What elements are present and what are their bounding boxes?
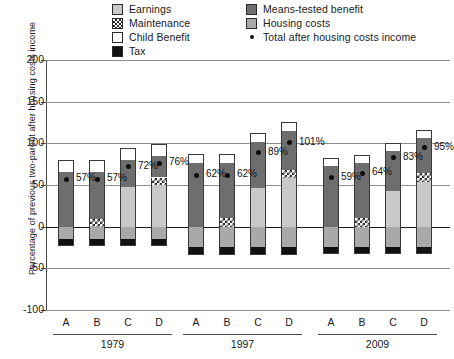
segment-child-benefit	[188, 154, 204, 163]
bar-1979-d	[151, 60, 167, 310]
segment-earnings	[151, 185, 167, 227]
legend-label-total-income: Total after housing costs income	[263, 31, 416, 43]
segment-maintenance	[416, 173, 432, 181]
legend-label-earnings: Earnings	[129, 3, 171, 15]
segment-child-benefit	[281, 122, 297, 131]
y-tick-label-200: 200	[10, 53, 44, 65]
segment-tax	[89, 239, 105, 246]
y-axis-title: Percentage of previous two-parent after …	[27, 35, 37, 275]
maintenance-swatch-icon	[112, 18, 123, 29]
total-income-marker-1997-d	[287, 140, 292, 145]
segment-housing-costs	[58, 227, 74, 240]
x-tick-label-1997-D: D	[278, 316, 300, 328]
segment-housing-costs	[385, 227, 401, 247]
segment-tax	[120, 239, 136, 246]
segment-maintenance	[89, 219, 105, 227]
total-income-label-1979-a: 57%	[76, 172, 96, 183]
segment-child-benefit	[120, 148, 136, 160]
x-axis: ABCD1979ABCD1997ABCD2009	[46, 310, 450, 359]
total-income-label-1997-d: 101%	[299, 136, 325, 147]
total-income-label-1997-a: 62%	[206, 168, 226, 179]
segment-housing-costs	[323, 227, 339, 247]
segment-means-tested-benefit	[250, 142, 266, 189]
x-tick-label-1979-C: C	[117, 316, 139, 328]
total-income-label-1997-b: 62%	[237, 168, 257, 179]
y-tick-label-0: 0	[10, 220, 44, 232]
group-label-1997: 1997	[183, 338, 302, 350]
segment-housing-costs	[89, 227, 105, 240]
segment-child-benefit	[151, 144, 167, 156]
segment-maintenance	[219, 218, 235, 226]
total-income-marker-2009-a	[329, 175, 334, 180]
total-income-marker-2009-d	[422, 145, 427, 150]
group-label-2009: 2009	[318, 338, 437, 350]
segment-housing-costs	[151, 227, 167, 240]
segment-child-benefit	[385, 143, 401, 151]
x-tick-label-2009-B: B	[351, 316, 373, 328]
x-tick-label-1979-D: D	[148, 316, 170, 328]
plot-area: 200150100500-50-100 57%57%72%76%62%62%89…	[46, 60, 450, 310]
y-tick-label-50: 50	[10, 178, 44, 190]
legend-item-housing-costs: Housing costs	[246, 16, 416, 30]
total-income-label-1979-b: 57%	[107, 172, 127, 183]
group-rule-2009	[318, 334, 437, 335]
bar-2009-b	[354, 60, 370, 310]
legend-item-means-tested-benefit: Means-tested benefit	[246, 2, 416, 16]
y-tick-label--100: -100	[10, 303, 44, 315]
bar-2009-d	[416, 60, 432, 310]
segment-housing-costs	[250, 227, 266, 247]
bar-1997-c	[250, 60, 266, 310]
segment-housing-costs	[120, 227, 136, 240]
segment-maintenance	[281, 170, 297, 178]
y-tick-label-100: 100	[10, 136, 44, 148]
total-income-marker-1997-b	[225, 173, 230, 178]
segment-child-benefit	[323, 158, 339, 166]
legend-label-maintenance: Maintenance	[129, 17, 190, 29]
total-income-label-2009-d: 95%	[434, 141, 454, 152]
x-tick-label-1979-B: B	[86, 316, 108, 328]
earnings-swatch-icon	[112, 4, 123, 15]
segment-tax	[323, 247, 339, 255]
chart-root: Earnings Maintenance Child Benefit Tax M…	[0, 0, 454, 359]
bar-1997-d	[281, 60, 297, 310]
bar-2009-a	[323, 60, 339, 310]
total-income-marker-2009-b	[360, 171, 365, 176]
means-tested-benefit-swatch-icon	[246, 4, 257, 15]
total-income-marker-1979-d	[157, 161, 162, 166]
child-benefit-swatch-icon	[112, 32, 123, 43]
bar-1979-b	[89, 60, 105, 310]
segment-tax	[58, 239, 74, 246]
segment-tax	[385, 247, 401, 255]
legend-label-tax: Tax	[129, 45, 146, 57]
segment-child-benefit	[58, 160, 74, 172]
total-income-label-1997-c: 89%	[268, 146, 288, 157]
segment-earnings	[120, 187, 136, 227]
total-income-label-1979-c: 72%	[138, 160, 158, 171]
legend-label-means-tested-benefit: Means-tested benefit	[263, 3, 363, 15]
segment-tax	[416, 247, 432, 255]
segment-tax	[250, 247, 266, 255]
tax-swatch-icon	[112, 46, 123, 57]
legend-item-tax: Tax	[112, 44, 190, 58]
total-income-label-1979-d: 76%	[169, 156, 189, 167]
total-income-dot-marker-icon	[246, 32, 257, 43]
legend-label-child-benefit: Child Benefit	[129, 31, 190, 43]
legend-column-right: Means-tested benefit Housing costs Total…	[246, 2, 416, 44]
group-rule-1997	[183, 334, 302, 335]
x-tick-label-1979-A: A	[55, 316, 77, 328]
x-tick-label-1997-A: A	[185, 316, 207, 328]
bar-1997-b	[219, 60, 235, 310]
segment-tax	[151, 239, 167, 246]
total-income-label-2009-a: 59%	[341, 171, 361, 182]
legend-item-maintenance: Maintenance	[112, 16, 190, 30]
housing-costs-swatch-icon	[246, 18, 257, 29]
segment-maintenance	[354, 218, 370, 226]
y-tick-label--50: -50	[10, 261, 44, 273]
segment-housing-costs	[354, 227, 370, 247]
group-label-1979: 1979	[53, 338, 172, 350]
segment-child-benefit	[416, 130, 432, 138]
legend-label-housing-costs: Housing costs	[263, 17, 330, 29]
x-tick-label-2009-C: C	[382, 316, 404, 328]
segment-housing-costs	[188, 227, 204, 247]
total-income-label-2009-c: 83%	[403, 151, 423, 162]
